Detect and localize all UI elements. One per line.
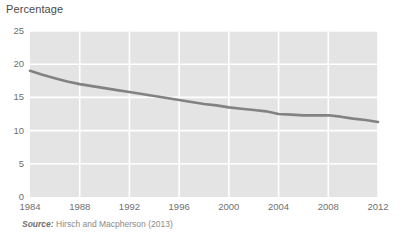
y-tick-label: 25 — [4, 25, 24, 36]
y-tick-label: 20 — [4, 58, 24, 69]
x-tick-label: 1988 — [60, 201, 100, 212]
x-tick-label: 2000 — [209, 201, 249, 212]
x-tick-label: 1996 — [159, 201, 199, 212]
y-tick-label: 5 — [4, 158, 24, 169]
y-tick-label: 15 — [4, 91, 24, 102]
x-tick-label: 2008 — [308, 201, 348, 212]
x-tick-label: 2004 — [259, 201, 299, 212]
x-tick-label: 1992 — [109, 201, 149, 212]
source-label: Source: — [22, 219, 54, 229]
source-text: Hirsch and Macpherson (2013) — [54, 219, 173, 229]
x-tick-label: 2012 — [358, 201, 398, 212]
y-tick-label: 10 — [4, 125, 24, 136]
x-tick-label: 1984 — [10, 201, 50, 212]
line-chart-figure: Percentage 2520151050 198419881992199620… — [0, 0, 402, 239]
source-note: Source: Hirsch and Macpherson (2013) — [22, 219, 173, 229]
plot-background — [30, 31, 378, 197]
